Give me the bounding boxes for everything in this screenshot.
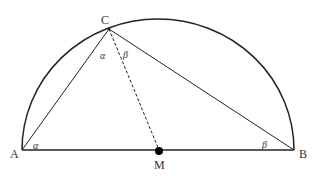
label-a: A [10, 147, 19, 161]
segment-ac [22, 29, 109, 150]
semicircle-diagram: C A B M α β α β [0, 0, 320, 179]
semicircle-arc [22, 19, 294, 150]
angle-beta-at-b: β [261, 139, 267, 150]
angle-alpha-at-a: α [33, 140, 39, 151]
label-c: C [101, 13, 109, 27]
diagram-canvas: C A B M α β α β [0, 0, 320, 179]
segment-cb [109, 29, 294, 150]
label-b: B [299, 147, 307, 161]
point-c-dot [108, 28, 111, 31]
median-cm-dashed [109, 29, 159, 150]
label-m: M [154, 158, 165, 172]
point-m-dot [155, 147, 163, 155]
angle-alpha-at-c: α [100, 50, 106, 61]
angle-beta-at-c: β [122, 49, 128, 60]
